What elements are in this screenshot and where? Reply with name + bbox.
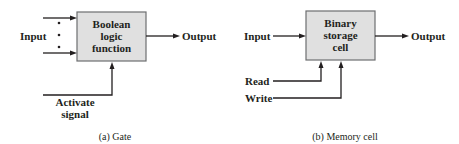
memory-block-line-1: Binary	[324, 17, 357, 29]
ellipsis-dot	[58, 46, 61, 49]
arrowhead-icon	[173, 34, 180, 39]
diagram-canvas: Boolean logic function Input Output Acti…	[0, 0, 459, 144]
activate-signal-line	[43, 68, 112, 95]
gate-block-line-1: Boolean	[93, 18, 131, 30]
arrowhead-icon	[70, 16, 77, 21]
arrowhead-icon	[402, 34, 409, 39]
memory-output-label: Output	[411, 30, 446, 42]
arrowhead-icon	[319, 61, 324, 68]
gate-caption: (a) Gate	[99, 131, 132, 143]
memory-block-line-3: cell	[333, 41, 349, 53]
ellipsis-dot	[58, 34, 61, 37]
read-line	[273, 67, 321, 81]
arrowhead-icon	[299, 34, 306, 39]
memory-cell-diagram: Binary storage cell Input Output Read Wr…	[244, 11, 446, 143]
gate-diagram: Boolean logic function Input Output Acti…	[20, 12, 217, 143]
memory-input-label: Input	[244, 30, 271, 42]
gate-block-line-2: logic	[101, 30, 123, 42]
arrowhead-icon	[339, 61, 344, 68]
gate-input-label: Input	[20, 30, 47, 42]
activate-label-line-1: Activate	[55, 96, 94, 108]
write-label: Write	[245, 92, 272, 104]
write-line	[273, 67, 341, 98]
ellipsis-dot	[58, 22, 61, 25]
activate-label-line-2: signal	[61, 108, 89, 120]
gate-output-label: Output	[182, 30, 217, 42]
read-label: Read	[245, 75, 269, 87]
memory-block-line-2: storage	[323, 29, 357, 41]
arrowhead-icon	[110, 62, 115, 69]
arrowhead-icon	[70, 51, 77, 56]
gate-block-line-3: function	[92, 42, 131, 54]
memory-caption: (b) Memory cell	[312, 131, 378, 143]
